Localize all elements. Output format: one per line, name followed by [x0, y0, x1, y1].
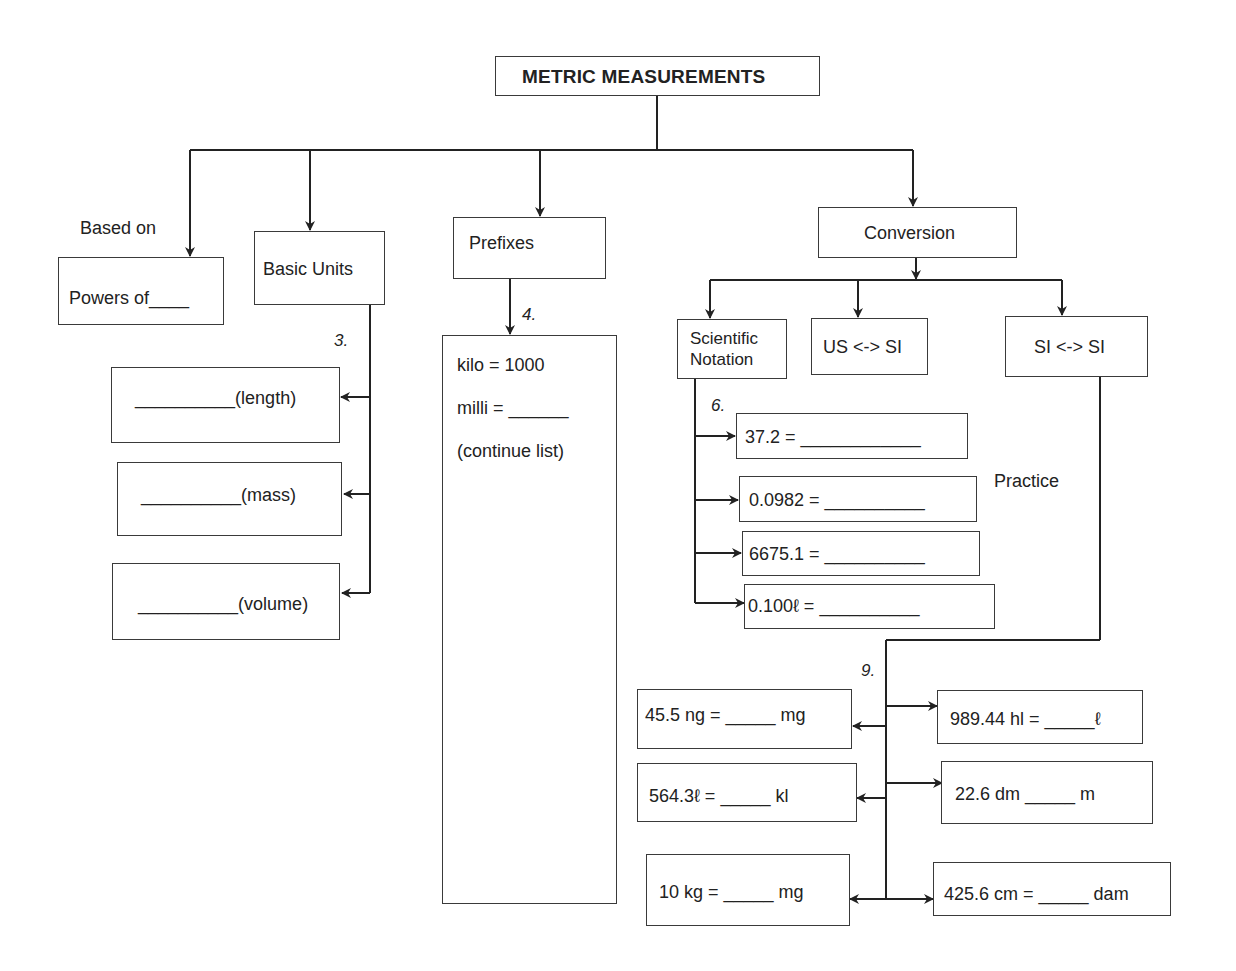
title-box: METRIC MEASUREMENTS [495, 56, 820, 96]
si-right-1: 989.44 hl = _____ℓ [937, 690, 1143, 744]
length-unit-text: __________(length) [135, 388, 296, 409]
powers-of-box: Powers of____ [58, 257, 224, 325]
practice-label: Practice [994, 471, 1059, 492]
si-right-3: 425.6 cm = _____ dam [933, 862, 1171, 916]
basic-units-label: Basic Units [263, 259, 353, 280]
us-si-label: US <-> SI [823, 337, 902, 358]
si-left-3: 10 kg = _____ mg [646, 854, 850, 926]
length-unit-box: __________(length) [111, 367, 340, 443]
mass-unit-text: __________(mass) [141, 485, 296, 506]
si-right-2: 22.6 dm _____ m [941, 761, 1153, 824]
prefix-list-box: kilo = 1000 milli = ______ (continue lis… [442, 335, 617, 904]
si-left-3-text: 10 kg = _____ mg [659, 882, 804, 903]
based-on-caption: Based on [80, 218, 156, 239]
sci-practice-4: 0.100ℓ = __________ [744, 584, 995, 629]
sci-practice-2: 0.0982 = __________ [739, 476, 977, 522]
prefixes-label: Prefixes [469, 233, 534, 254]
sci-practice-1: 37.2 = ____________ [736, 413, 968, 459]
item-number-4: 4. [522, 305, 536, 325]
si-left-2: 564.3ℓ = _____ kl [637, 763, 857, 822]
basic-units-box: Basic Units [254, 231, 385, 305]
si-right-1-text: 989.44 hl = _____ℓ [950, 709, 1100, 730]
mass-unit-box: __________(mass) [117, 462, 342, 536]
si-right-2-text: 22.6 dm _____ m [955, 784, 1095, 805]
sci-practice-2-text: 0.0982 = __________ [749, 490, 925, 511]
item-number-9: 9. [861, 661, 875, 681]
item-number-6: 6. [711, 396, 725, 416]
si-left-2-text: 564.3ℓ = _____ kl [649, 786, 788, 807]
si-si-box: SI <-> SI [1005, 316, 1148, 377]
prefix-milli: milli = ______ [457, 398, 569, 419]
powers-of-text: Powers of____ [69, 288, 189, 309]
scientific-label-2: Notation [690, 350, 753, 370]
scientific-notation-box: Scientific Notation [677, 319, 787, 379]
prefix-kilo: kilo = 1000 [457, 355, 545, 376]
item-number-3: 3. [334, 331, 348, 351]
si-right-3-text: 425.6 cm = _____ dam [944, 884, 1129, 905]
sci-practice-3-text: 6675.1 = __________ [749, 544, 925, 565]
conversion-label: Conversion [864, 223, 955, 244]
si-left-1-text: 45.5 ng = _____ mg [645, 705, 806, 726]
si-left-1: 45.5 ng = _____ mg [637, 689, 852, 749]
conversion-box: Conversion [818, 207, 1017, 258]
si-si-label: SI <-> SI [1034, 337, 1105, 358]
sci-practice-4-text: 0.100ℓ = __________ [748, 596, 919, 617]
sci-practice-1-text: 37.2 = ____________ [745, 427, 921, 448]
diagram-title: METRIC MEASUREMENTS [522, 66, 765, 88]
prefixes-box: Prefixes [453, 217, 606, 279]
scientific-label-1: Scientific [690, 329, 758, 349]
volume-unit-box: __________(volume) [112, 563, 340, 640]
prefix-continue: (continue list) [457, 441, 564, 462]
volume-unit-text: __________(volume) [138, 594, 308, 615]
sci-practice-3: 6675.1 = __________ [742, 531, 980, 576]
us-si-box: US <-> SI [811, 318, 928, 375]
